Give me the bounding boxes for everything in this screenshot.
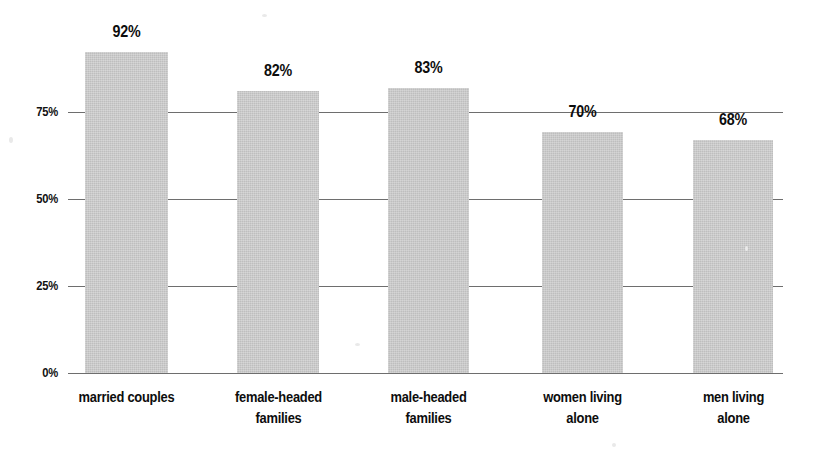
bar-value-label-married-couples: 92%	[92, 22, 162, 42]
bar-value-label-male-headed-families: 83%	[394, 58, 462, 78]
bar-value-label-women-living-alone: 70%	[548, 102, 616, 122]
category-label-female-headed-families: female-headed families	[218, 386, 339, 428]
bar-value-label-female-headed-families: 82%	[244, 61, 313, 81]
plot-area: 75% 50% 25% 0% 92% 82% 83% 70% 68% marri…	[0, 0, 816, 469]
category-label-men-living-alone: men living alone	[673, 386, 794, 428]
scan-speck	[9, 137, 13, 143]
bar-men-living-alone	[693, 140, 773, 373]
scan-speck	[612, 443, 616, 447]
y-tick-label-25: 25%	[20, 278, 58, 293]
scan-speck	[355, 343, 360, 346]
bar-married-couples	[85, 52, 168, 373]
y-tick-label-75: 75%	[20, 104, 58, 119]
bar-female-headed-families	[237, 91, 319, 373]
category-label-male-headed-families: male-headed families	[368, 386, 489, 428]
category-label-married-couples: married couples	[66, 386, 187, 407]
bar-male-headed-families	[388, 88, 469, 373]
category-label-women-living-alone: women living alone	[522, 386, 643, 428]
y-tick-label-50: 50%	[20, 191, 58, 206]
y-tick-label-0: 0%	[20, 365, 58, 380]
bar-value-label-men-living-alone: 68%	[699, 110, 766, 130]
bar-women-living-alone	[542, 132, 623, 373]
scan-speck	[262, 14, 267, 17]
bar-chart: 75% 50% 25% 0% 92% 82% 83% 70% 68% marri…	[0, 0, 816, 469]
x-axis-baseline	[68, 373, 783, 374]
